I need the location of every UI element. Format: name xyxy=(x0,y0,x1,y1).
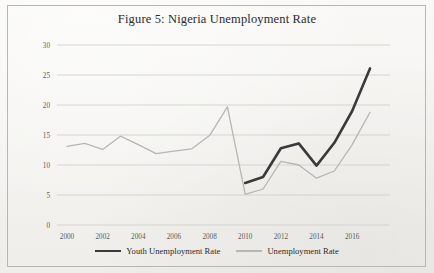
series-line xyxy=(67,107,370,195)
y-axis-tick-label: 30 xyxy=(43,42,51,50)
x-axis-tick-label: 2004 xyxy=(131,233,146,241)
x-axis-tick-label: 2014 xyxy=(309,233,324,241)
x-axis-tick-label: 2000 xyxy=(60,233,75,241)
legend-label: Unemployment Rate xyxy=(267,246,338,256)
data-series-group xyxy=(67,68,370,194)
x-axis-tick-label: 2012 xyxy=(274,233,289,241)
y-axis-tick-label: 25 xyxy=(43,72,51,80)
x-axis-tick-label: 2008 xyxy=(202,233,217,241)
x-axis-tick-labels: 200020022004200620082010201220142016 xyxy=(60,233,360,241)
legend-item-youth-unemployment-rate: Youth Unemployment Rate xyxy=(95,246,220,256)
legend-item-unemployment-rate: Unemployment Rate xyxy=(236,246,338,256)
x-axis-tick-label: 2016 xyxy=(345,233,360,241)
y-axis-tick-label: 15 xyxy=(43,132,51,140)
legend-label: Youth Unemployment Rate xyxy=(126,246,220,256)
y-axis-tick-label: 20 xyxy=(43,102,51,110)
chart-legend: Youth Unemployment Rate Unemployment Rat… xyxy=(0,246,434,256)
y-axis-tick-label: 10 xyxy=(43,162,51,170)
series-line xyxy=(245,68,370,183)
y-axis-tick-label: 5 xyxy=(46,192,50,200)
x-axis-tick-label: 2002 xyxy=(95,233,110,241)
x-axis-tick-label: 2006 xyxy=(167,233,182,241)
line-chart-plot: 051015202530 200020022004200620082010201… xyxy=(0,0,434,273)
x-axis-tick-label: 2010 xyxy=(238,233,253,241)
figure-container: Figure 5: Nigeria Unemployment Rate 0510… xyxy=(0,0,434,273)
legend-line-swatch-icon xyxy=(95,250,121,253)
legend-line-swatch-icon xyxy=(236,250,262,251)
y-axis-tick-label: 0 xyxy=(46,222,50,230)
y-axis-tick-labels: 051015202530 xyxy=(43,42,51,230)
